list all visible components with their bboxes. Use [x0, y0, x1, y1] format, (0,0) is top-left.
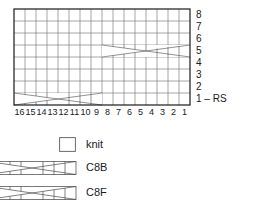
legend-item-c8b: C8B: [0, 159, 254, 181]
column-label-1: 1: [175, 106, 194, 118]
row-label-1: 1 – RS: [196, 93, 227, 105]
chart-legend: knit: [0, 134, 254, 211]
legend-label-knit: knit: [86, 134, 103, 154]
legend-item-c8f: C8F: [0, 184, 254, 206]
knit-swatch-icon: [59, 137, 76, 156]
chart-grid: [14, 9, 190, 105]
column-number-axis: 16 15 14 13 12 11 10 9 8 7 6 5 4 3 2 1: [14, 106, 190, 119]
row-label-7: 7: [196, 21, 202, 33]
cell-symbol-c8f-row5: [102, 45, 190, 57]
row-label-4: 4: [196, 57, 202, 69]
row-label-5: 5: [196, 45, 202, 57]
row-number-axis: 1 – RS 2 3 4 5 6 7 8: [196, 9, 252, 105]
cable-chart-figure: 1 – RS 2 3 4 5 6 7 8 16 15 14 13 12 11 1…: [0, 0, 254, 130]
row-label-8: 8: [196, 9, 202, 21]
cell-symbol-c8b-row1: [14, 93, 102, 105]
row-label-3: 3: [196, 69, 202, 81]
chart-grid-svg: [14, 9, 190, 105]
legend-label-c8f: C8F: [86, 182, 107, 202]
row-label-6: 6: [196, 33, 202, 45]
legend-label-c8b: C8B: [86, 157, 107, 177]
legend-item-knit: knit: [0, 134, 254, 156]
c8f-swatch-icon: [0, 185, 77, 205]
c8b-swatch-icon: [0, 160, 77, 180]
row-label-2: 2: [196, 81, 202, 93]
